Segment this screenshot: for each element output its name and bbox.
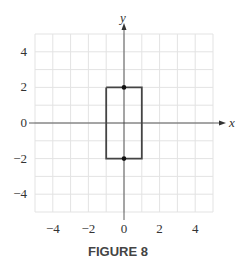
x-tick-label: −2 [81, 221, 95, 236]
data-point [122, 156, 127, 161]
y-tick-label: 4 [21, 44, 28, 59]
data-point [122, 85, 127, 90]
y-tick-label: −2 [13, 151, 27, 166]
figure-caption: FIGURE 8 [0, 244, 236, 259]
x-tick-label: 2 [156, 221, 163, 236]
chart: xy −4−2024420−2−4 [0, 0, 236, 265]
x-axis-label: x [228, 115, 235, 130]
y-tick-label: 2 [21, 79, 28, 94]
x-tick-label: −4 [46, 221, 60, 236]
x-axis-arrow-icon [219, 121, 226, 126]
axes: xy [29, 10, 235, 220]
x-tick-label: 0 [121, 221, 128, 236]
y-tick-label: 0 [21, 115, 28, 130]
y-axis-label: y [118, 10, 126, 25]
y-tick-label: −4 [13, 186, 27, 201]
x-tick-label: 4 [192, 221, 199, 236]
